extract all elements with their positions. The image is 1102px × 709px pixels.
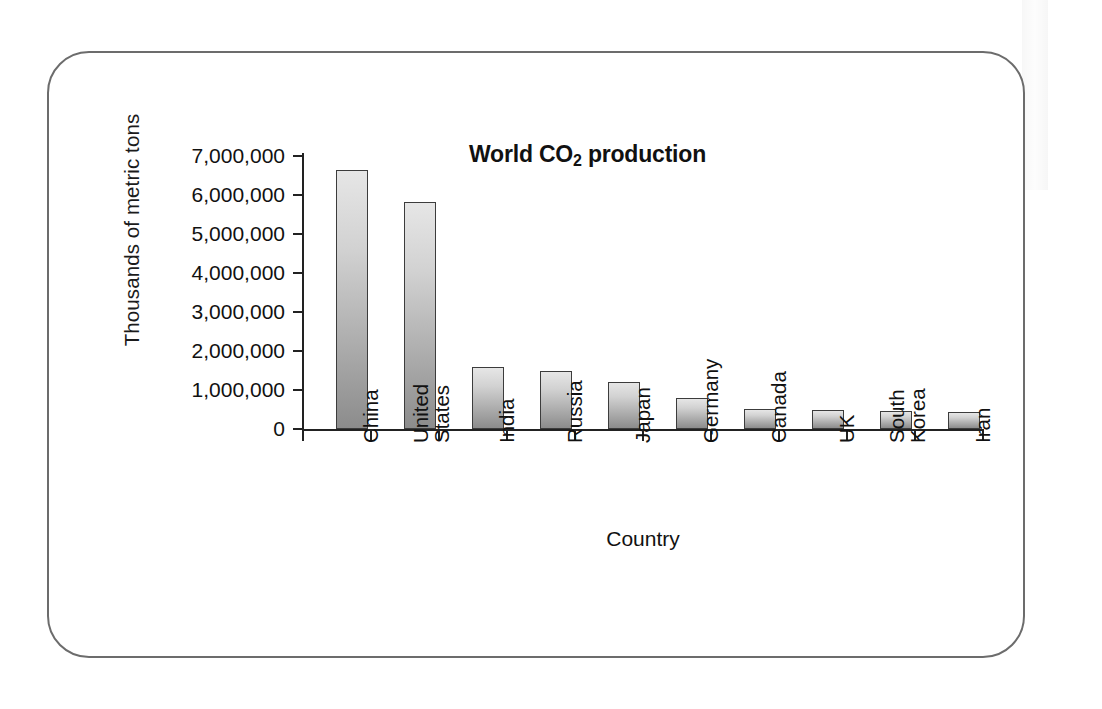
y-axis-tick-label: 7,000,000	[125, 144, 285, 168]
x-axis-tick-label: Russia	[564, 380, 585, 443]
y-axis-tick-label: 5,000,000	[125, 222, 285, 246]
plot-area: 01,000,0002,000,0003,000,0004,000,0005,0…	[302, 156, 984, 429]
x-axis-tick-label: Japan	[632, 387, 653, 443]
y-axis-tick-label: 6,000,000	[125, 183, 285, 207]
y-axis-tick	[293, 389, 302, 391]
y-axis-tick-label: 4,000,000	[125, 261, 285, 285]
x-axis-tick-label: Iran	[972, 408, 993, 443]
y-axis-tick-label: 2,000,000	[125, 339, 285, 363]
x-axis-tick	[302, 431, 304, 441]
y-axis-tick	[293, 233, 302, 235]
y-axis-tick	[293, 350, 302, 352]
y-axis-tick	[293, 155, 302, 157]
y-axis-tick-label: 0	[125, 417, 285, 441]
y-axis-tick	[293, 194, 302, 196]
x-axis-tick-label: China	[360, 389, 381, 443]
x-axis-tick-label: UK	[836, 415, 857, 443]
bar-chart: Thousands of metric tons World CO2 produ…	[49, 53, 1027, 660]
y-axis-tick	[293, 428, 302, 430]
x-axis-tick-label: Canada	[768, 371, 789, 443]
x-axis-tick-label-line: States	[431, 384, 452, 443]
y-axis-tick	[293, 311, 302, 313]
x-axis-tick-label-line: United	[409, 384, 432, 443]
x-axis-tick-label: UnitedStates	[410, 384, 452, 443]
x-axis-tick-label: SouthKorea	[886, 388, 928, 443]
x-axis-tick-label-line: South	[885, 389, 908, 443]
y-axis-tick-label: 3,000,000	[125, 300, 285, 324]
x-axis-title: Country	[302, 527, 984, 551]
x-axis-tick-label: India	[496, 399, 517, 443]
y-axis-tick-label: 1,000,000	[125, 378, 285, 402]
y-axis-tick	[293, 272, 302, 274]
figure-frame: Thousands of metric tons World CO2 produ…	[47, 51, 1025, 658]
y-axis-line	[302, 153, 304, 432]
x-axis-tick-label: Germany	[700, 359, 721, 443]
x-axis-tick-label-line: Korea	[907, 388, 928, 443]
